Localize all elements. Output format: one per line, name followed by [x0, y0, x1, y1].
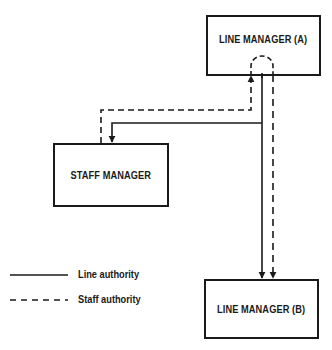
node-label: STAFF MANAGER: [71, 169, 152, 181]
node-staff-manager: STAFF MANAGER: [53, 143, 169, 207]
staff-authority-staff-to-a: [101, 76, 251, 143]
line-authority-a-to-staff: [112, 123, 262, 142]
legend-label-staff-authority: Staff authority: [78, 293, 141, 305]
node-line-manager-a: LINE MANAGER (A): [206, 15, 321, 76]
node-label: LINE MANAGER (A): [219, 33, 307, 45]
node-label: LINE MANAGER (B): [217, 303, 305, 315]
legend-label-line-authority: Line authority: [78, 268, 139, 280]
node-line-manager-b: LINE MANAGER (B): [204, 279, 319, 339]
